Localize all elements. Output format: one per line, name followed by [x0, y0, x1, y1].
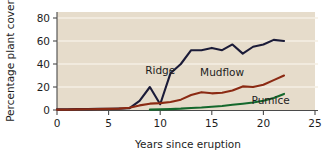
y-axis-title: Percentage plant cover	[4, 0, 16, 122]
x-tick-label: 5	[105, 117, 112, 129]
y-tick-label: 40	[37, 58, 50, 70]
y-tick-label: 80	[37, 12, 50, 24]
y-tick-label: 20	[37, 81, 50, 93]
x-tick-label: 0	[54, 117, 61, 129]
x-axis-title: Years since eruption	[134, 138, 241, 150]
y-tick-label: 60	[37, 35, 50, 47]
series-label-pumice: Pumice	[252, 94, 290, 106]
x-axis-tick-labels: 0510152025	[54, 117, 322, 129]
x-tick-label: 15	[205, 117, 218, 129]
chart-figure: 020406080 0510152025 RidgeMudflowPumice …	[0, 0, 331, 153]
y-axis-ticks	[53, 18, 57, 110]
y-axis-tick-labels: 020406080	[37, 12, 50, 116]
line-chart: 020406080 0510152025 RidgeMudflowPumice …	[0, 0, 331, 153]
series-label-ridge: Ridge	[145, 64, 175, 76]
x-tick-label: 10	[154, 117, 167, 129]
x-tick-label: 25	[308, 117, 321, 129]
y-tick-label: 0	[43, 104, 50, 116]
x-tick-label: 20	[257, 117, 270, 129]
series-label-mudflow: Mudflow	[200, 66, 244, 78]
x-axis-ticks	[57, 111, 315, 116]
